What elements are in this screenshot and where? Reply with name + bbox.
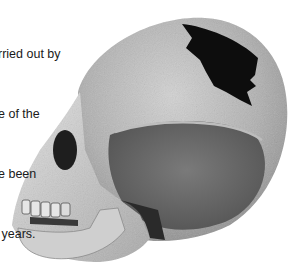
text-line: years. <box>0 224 61 244</box>
text-line: e been <box>0 164 61 184</box>
text-line: rried out by <box>0 44 61 64</box>
article-text-fragment: rried out by e of the e been years. or e… <box>0 4 61 266</box>
text-line: e of the <box>0 104 61 124</box>
